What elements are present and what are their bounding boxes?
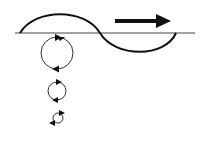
orbit-mid-depth xyxy=(48,79,66,103)
orbit-surface xyxy=(41,34,73,73)
propagation-arrow-icon xyxy=(115,14,171,28)
wave-orbital-diagram xyxy=(0,0,203,148)
orbit-deep xyxy=(49,110,65,126)
